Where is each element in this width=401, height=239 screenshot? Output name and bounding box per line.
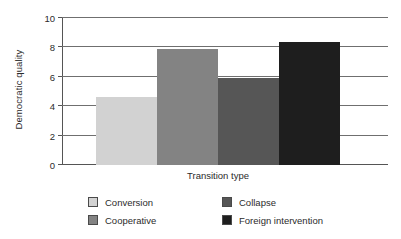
legend-label: Collapse — [239, 197, 276, 208]
y-tick-mark — [58, 164, 62, 165]
y-tick-label: 10 — [44, 13, 55, 24]
bars-group — [96, 18, 340, 165]
y-tick-mark — [58, 135, 62, 136]
y-tick-mark — [58, 46, 62, 47]
legend-item[interactable]: Cooperative — [88, 211, 218, 229]
y-tick-mark — [58, 17, 62, 18]
y-axis-title: Democratic quality — [13, 10, 24, 170]
y-tick-label: 8 — [50, 42, 55, 53]
legend-swatch-icon — [88, 215, 98, 225]
legend-item[interactable]: Collapse — [222, 193, 388, 211]
bar-chart-figure: Democratic quality 0246810 Transition ty… — [0, 0, 401, 239]
legend-label: Conversion — [105, 197, 153, 208]
legend-item[interactable]: Conversion — [88, 193, 218, 211]
y-tick-mark — [58, 105, 62, 106]
x-axis-title: Transition type — [96, 170, 340, 181]
bar-conversion[interactable] — [96, 97, 157, 165]
y-axis-spine — [62, 18, 63, 165]
y-tick-label: 0 — [50, 160, 55, 171]
y-tick-label: 2 — [50, 130, 55, 141]
legend-swatch-icon — [222, 197, 232, 207]
legend-swatch-icon — [88, 197, 98, 207]
plot-area: 0246810 — [62, 18, 388, 165]
y-tick-label: 4 — [50, 101, 55, 112]
y-tick-mark — [58, 76, 62, 77]
bar-collapse[interactable] — [218, 78, 279, 165]
legend-swatch-icon — [222, 215, 232, 225]
bar-cooperative[interactable] — [157, 49, 218, 165]
chart-legend: ConversionCollapseCooperativeForeign int… — [88, 193, 388, 229]
legend-item[interactable]: Foreign intervention — [222, 211, 388, 229]
bar-foreign-intervention[interactable] — [279, 42, 340, 165]
y-tick-label: 6 — [50, 71, 55, 82]
legend-label: Foreign intervention — [239, 215, 323, 226]
legend-label: Cooperative — [105, 215, 156, 226]
